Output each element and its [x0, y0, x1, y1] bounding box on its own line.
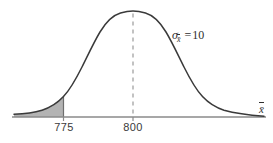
x-tick-label-775: 775 — [50, 121, 78, 133]
standard-error-annotation: σx̄=10 — [172, 28, 204, 44]
x-axis-variable-label: x̄ — [259, 103, 264, 115]
sigma-subscript-xbar: x̄ — [177, 35, 181, 44]
x-bar-glyph: x̄ — [259, 103, 264, 115]
normal-curve-path — [14, 11, 264, 116]
x-tick-label-800: 800 — [119, 121, 147, 133]
equals-sign: = — [181, 28, 192, 42]
standard-error-value: 10 — [192, 28, 204, 42]
normal-distribution-figure: 775 800 σx̄=10 x̄ — [0, 0, 273, 143]
